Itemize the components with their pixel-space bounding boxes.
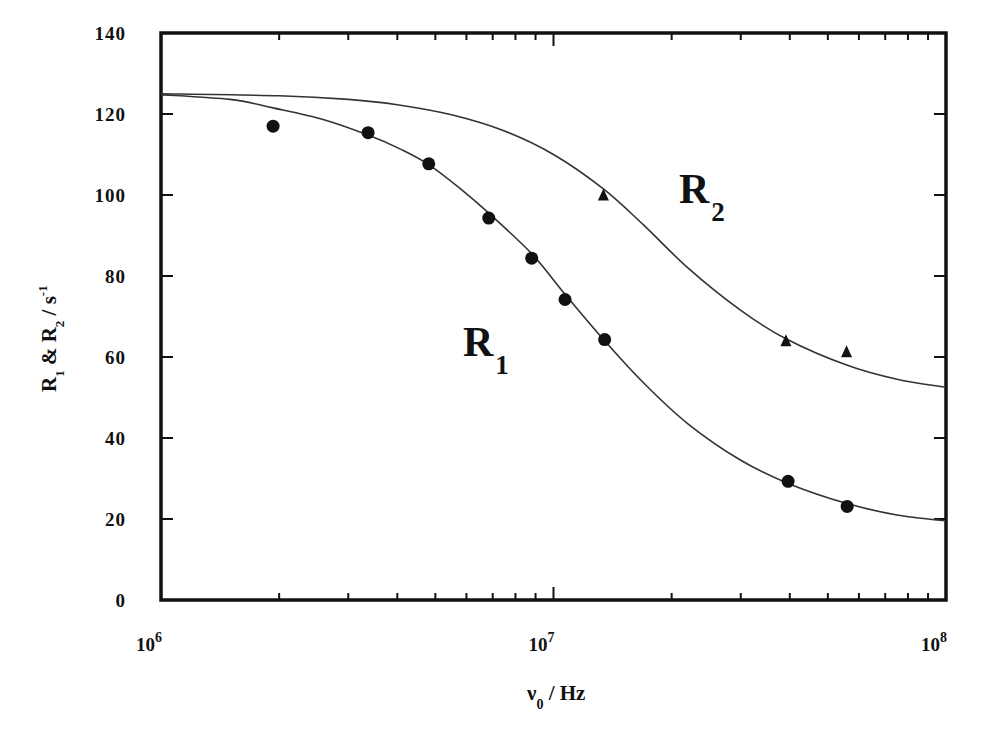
y-axis-title: R1 & R2 / s-1 (35, 285, 67, 392)
series-label-r1: R1 (463, 319, 509, 380)
y-tick-label: 120 (95, 104, 127, 125)
data-point-r1 (362, 126, 375, 139)
y-tick-label: 0 (116, 590, 127, 611)
data-point-r1 (841, 500, 854, 513)
x-tick-label: 106 (136, 630, 162, 655)
series-labels: R1R2 (463, 166, 725, 380)
x-axis-ticks: 106107108 (136, 33, 947, 655)
data-point-r2 (598, 189, 609, 201)
fit-curve-r2 (161, 94, 946, 388)
data-point-r1 (598, 333, 611, 346)
y-tick-label: 40 (105, 428, 126, 449)
figure-caption-fragment (0, 733, 990, 742)
fit-curves (161, 94, 946, 521)
data-markers (267, 120, 854, 513)
data-point-r1 (482, 212, 495, 225)
data-point-r1 (267, 120, 280, 133)
y-tick-label: 140 (95, 23, 127, 44)
y-tick-label: 100 (95, 185, 127, 206)
series-label-r2: R2 (679, 166, 725, 227)
x-tick-label: 107 (529, 630, 555, 655)
data-point-r1 (782, 475, 795, 488)
data-point-r2 (841, 345, 852, 357)
data-point-r1 (422, 157, 435, 170)
y-tick-label: 80 (105, 266, 126, 287)
fit-curve-r1 (161, 95, 946, 521)
x-axis-title: ν0 / Hz (526, 681, 585, 712)
y-tick-label: 20 (105, 509, 126, 530)
y-tick-label: 60 (105, 347, 126, 368)
data-point-r1 (525, 252, 538, 265)
plot-border (161, 33, 946, 600)
y-axis-ticks: 020406080100120140 (95, 23, 947, 611)
relaxation-dispersion-chart: 106107108 020406080100120140 R1R2 ν0 / H… (0, 0, 990, 742)
x-tick-label: 108 (921, 630, 947, 655)
axes-frame (161, 33, 946, 600)
data-point-r1 (559, 293, 572, 306)
